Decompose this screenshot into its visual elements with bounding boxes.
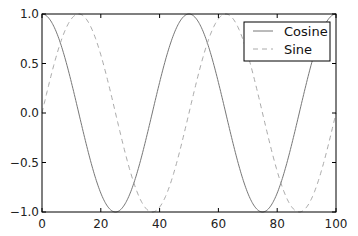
y-tick-label: −0.5 — [10, 156, 39, 170]
legend-sine-label: Sine — [284, 42, 312, 57]
x-tick-label: 0 — [38, 217, 46, 231]
legend: Cosine Sine — [244, 22, 330, 61]
chart: 020406080100 1.00.50.0−0.5−1.0 Cosine Si… — [0, 0, 358, 236]
y-tick-label: −1.0 — [10, 205, 39, 219]
y-tick-label: 0.5 — [20, 57, 39, 71]
x-tick-label: 60 — [211, 217, 226, 231]
x-tick-label: 100 — [325, 217, 348, 231]
legend-cosine-label: Cosine — [284, 24, 328, 39]
y-tick-label: 1.0 — [20, 7, 39, 21]
y-tick-label: 0.0 — [20, 106, 39, 120]
x-tick-label: 80 — [270, 217, 285, 231]
x-tick-label: 40 — [152, 217, 167, 231]
x-tick-label: 20 — [93, 217, 108, 231]
